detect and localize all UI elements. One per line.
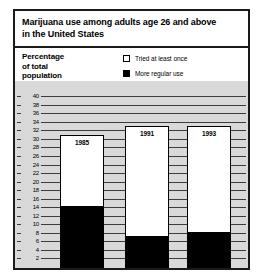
gridline [41,105,246,106]
y-tick-dash [17,113,21,114]
y-tick-label: 28 [23,144,39,150]
legend-swatch-filled-icon [123,70,130,77]
chart-title: Marijuana use among adults age 26 and ab… [22,17,243,40]
y-tick-label: 12 [23,212,39,218]
y-tick-label: 34 [23,118,39,124]
chart-title-line-1: Marijuana use among adults age 26 and ab… [22,17,243,29]
y-axis-label: Percentage of total population [22,52,64,81]
y-tick-dash [17,224,21,225]
y-tick-dash [17,122,21,123]
y-tick-dash [17,241,21,242]
bar-label-1993: 1993 [188,130,230,137]
y-tick-label: 38 [23,101,39,107]
gridline [41,113,246,114]
y-axis-label-line-2: of total [22,62,64,72]
y-tick-dash [17,130,21,131]
y-tick-label: 10 [23,221,39,227]
y-tick-label: 18 [23,187,39,193]
y-tick-label: 36 [23,110,39,116]
gridline [41,96,246,97]
y-tick-label: 2 [23,255,39,261]
y-tick-dash [17,105,21,106]
y-tick-label: 6 [23,238,39,244]
y-tick-dash [17,173,21,174]
chart-legend: Tried at least once More regular use [123,52,187,82]
bar-segment-more-regular-use [61,206,103,268]
y-tick-label: 8 [23,229,39,235]
bar-label-1991: 1991 [126,130,168,137]
bar-label-1985: 1985 [61,139,103,146]
bar-1985: 1985 [60,135,104,268]
y-tick-label: 16 [23,195,39,201]
legend-item-tried-at-least-once: Tried at least once [123,52,187,64]
legend-swatch-hollow-icon [123,55,130,62]
plot-inner: 2468101214161820222426283032343638401985… [15,81,248,268]
legend-item-more-regular-use: More regular use [123,67,187,79]
y-axis-label-line-1: Percentage [22,52,64,62]
legend-label: Tried at least once [135,55,187,62]
y-tick-label: 22 [23,170,39,176]
bar-1993: 1993 [187,126,231,268]
y-tick-dash [17,182,21,183]
y-tick-label: 4 [23,246,39,252]
y-tick-dash [17,233,21,234]
y-tick-label: 24 [23,161,39,167]
y-tick-dash [17,139,21,140]
gridline [41,122,246,123]
chart-title-band: Marijuana use among adults age 26 and ab… [15,11,248,48]
y-tick-dash [17,156,21,157]
y-tick-label: 40 [23,93,39,99]
y-tick-label: 20 [23,178,39,184]
chart-header-band: Percentage of total population Tried at … [15,48,248,81]
y-tick-label: 14 [23,204,39,210]
plot-area: 2468101214161820222426283032343638401985… [15,81,248,268]
y-tick-dash [17,165,21,166]
y-axis-label-line-3: population [22,71,64,81]
legend-label: More regular use [135,70,183,77]
y-tick-label: 32 [23,127,39,133]
y-tick-dash [17,250,21,251]
y-tick-dash [17,207,21,208]
y-tick-dash [17,96,21,97]
y-tick-dash [17,216,21,217]
y-tick-dash [17,199,21,200]
y-tick-label: 26 [23,153,39,159]
chart-figure: Marijuana use among adults age 26 and ab… [13,9,250,270]
y-tick-dash [17,190,21,191]
bar-1991: 1991 [125,126,169,268]
y-tick-dash [17,258,21,259]
bar-segment-more-regular-use [188,232,230,268]
bar-segment-more-regular-use [126,236,168,268]
y-tick-label: 30 [23,135,39,141]
y-tick-dash [17,147,21,148]
chart-title-line-2: in the United States [22,29,243,41]
